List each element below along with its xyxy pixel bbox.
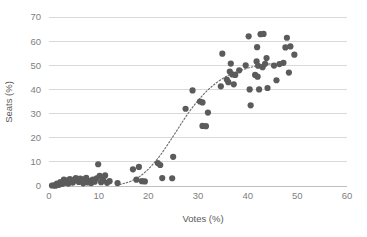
data-point bbox=[228, 61, 234, 67]
data-point bbox=[263, 55, 269, 61]
x-axis-title: Votes (%) bbox=[182, 213, 223, 224]
y-tick-label-60: 60 bbox=[30, 36, 41, 47]
data-point bbox=[247, 86, 253, 92]
data-points-group bbox=[49, 31, 298, 189]
y-tick-label-20: 20 bbox=[30, 132, 41, 143]
data-point bbox=[170, 154, 176, 160]
data-point bbox=[284, 35, 290, 41]
data-point bbox=[157, 162, 163, 168]
data-point bbox=[142, 178, 148, 184]
data-point bbox=[286, 69, 292, 75]
x-tick-label-50: 50 bbox=[292, 190, 303, 201]
y-tick-label-30: 30 bbox=[30, 108, 41, 119]
y-tick-label-10: 10 bbox=[30, 156, 41, 167]
data-point bbox=[225, 79, 231, 85]
data-point bbox=[255, 74, 261, 80]
x-tick-label-0: 0 bbox=[46, 190, 51, 201]
data-point bbox=[243, 62, 249, 68]
data-point bbox=[246, 33, 252, 39]
data-point bbox=[95, 161, 101, 167]
x-tick-label-20: 20 bbox=[143, 190, 154, 201]
data-point bbox=[199, 99, 205, 105]
data-point bbox=[182, 106, 188, 112]
data-point bbox=[236, 67, 242, 73]
y-tick-label-40: 40 bbox=[30, 84, 41, 95]
data-point bbox=[256, 86, 262, 92]
x-tick-label-30: 30 bbox=[193, 190, 204, 201]
x-tick-label-10: 10 bbox=[93, 190, 104, 201]
data-point bbox=[133, 177, 139, 183]
data-point bbox=[169, 175, 175, 181]
x-tick-labels-group: 0102030405060 bbox=[46, 190, 352, 201]
chart-canvas: 010203040506070 0102030405060 Votes (%) … bbox=[0, 0, 367, 237]
y-tick-labels-group: 010203040506070 bbox=[30, 11, 41, 191]
data-point bbox=[189, 87, 195, 93]
data-point bbox=[136, 164, 142, 170]
data-point bbox=[130, 166, 136, 172]
y-tick-label-70: 70 bbox=[30, 11, 41, 22]
data-point bbox=[248, 102, 254, 108]
y-axis-title: Seats (%) bbox=[3, 81, 14, 123]
data-point bbox=[287, 43, 293, 49]
data-point bbox=[159, 175, 165, 181]
data-point bbox=[218, 83, 224, 89]
data-point bbox=[205, 110, 211, 116]
data-point bbox=[254, 44, 260, 50]
scatter-chart: 010203040506070 0102030405060 Votes (%) … bbox=[0, 0, 367, 237]
gridlines-group bbox=[49, 17, 347, 162]
data-point bbox=[219, 51, 225, 57]
data-point bbox=[102, 172, 108, 178]
x-tick-label-40: 40 bbox=[242, 190, 253, 201]
x-tick-label-60: 60 bbox=[342, 190, 353, 201]
y-tick-label-50: 50 bbox=[30, 60, 41, 71]
data-point bbox=[231, 81, 237, 87]
data-point bbox=[203, 123, 209, 129]
data-point bbox=[114, 180, 120, 186]
data-point bbox=[273, 77, 279, 83]
data-point bbox=[260, 31, 266, 37]
y-tick-label-0: 0 bbox=[36, 180, 41, 191]
data-point bbox=[280, 60, 286, 66]
data-point bbox=[262, 61, 268, 67]
data-point bbox=[264, 85, 270, 91]
data-point bbox=[291, 52, 297, 58]
data-point bbox=[106, 178, 112, 184]
data-point bbox=[271, 62, 277, 68]
